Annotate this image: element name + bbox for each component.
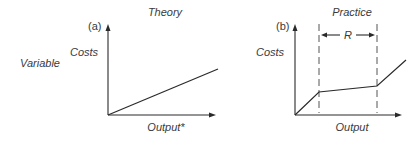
range-arrow-left-icon <box>321 33 327 38</box>
side-label: Variable <box>20 57 60 69</box>
panel-a-x-arrow-icon <box>209 113 216 118</box>
panel-a-y-arrow-icon <box>106 24 111 31</box>
range-label: R <box>344 29 352 41</box>
panel-b-x-label: Output <box>335 121 369 133</box>
panel-b-tag: (b) <box>276 20 289 32</box>
panel-b-x-arrow-icon <box>395 113 402 118</box>
panel-b-cost-curve <box>295 60 406 115</box>
panel-a-tag: (a) <box>88 20 101 32</box>
panel-b: Practice (b) Costs Output R <box>256 6 406 133</box>
cost-diagram: Variable Theory (a) Costs Output* Practi… <box>0 0 416 145</box>
panel-b-y-arrow-icon <box>293 24 298 31</box>
panel-a-cost-line <box>108 69 218 115</box>
range-arrow-right-icon <box>369 33 375 38</box>
panel-a-y-label: Costs <box>70 46 99 58</box>
panel-b-title: Practice <box>332 6 372 18</box>
panel-a-x-label: Output* <box>147 121 185 133</box>
panel-a-title: Theory <box>148 6 184 18</box>
panel-b-y-label: Costs <box>256 46 285 58</box>
panel-a: Theory (a) Costs Output* <box>70 6 218 133</box>
